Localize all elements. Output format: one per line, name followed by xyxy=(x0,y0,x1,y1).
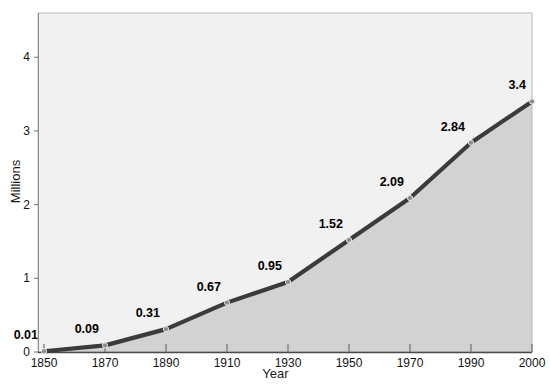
data-point xyxy=(163,327,168,332)
x-axis-title: Year xyxy=(0,366,551,381)
data-point-label: 0.95 xyxy=(258,259,282,273)
y-tick-label: 4 xyxy=(23,50,30,64)
y-tick-label: 1 xyxy=(23,271,30,285)
data-point xyxy=(468,140,473,145)
data-point xyxy=(224,300,229,305)
area-chart: 01234 1850187018901910193019501970199020… xyxy=(0,0,551,388)
data-point-label: 0.31 xyxy=(136,306,160,320)
data-point-label: 3.4 xyxy=(509,78,526,92)
data-point xyxy=(529,99,534,104)
data-point xyxy=(285,279,290,284)
y-tick-label: 0 xyxy=(23,345,30,359)
data-point-label: 2.84 xyxy=(441,120,465,134)
y-axis-title: Millions xyxy=(8,137,23,227)
data-point-label: 2.09 xyxy=(380,175,404,189)
data-point xyxy=(407,195,412,200)
y-axis-ticks: 01234 xyxy=(23,50,38,359)
y-tick-label: 3 xyxy=(23,124,30,138)
y-tick-label: 2 xyxy=(23,198,30,212)
chart-container: 01234 1850187018901910193019501970199020… xyxy=(0,0,551,388)
data-point-label: 0.01 xyxy=(14,328,38,342)
data-point xyxy=(102,343,107,348)
data-point xyxy=(41,349,46,354)
data-point xyxy=(346,237,351,242)
data-point-label: 1.52 xyxy=(319,217,343,231)
data-point-label: 0.09 xyxy=(75,322,99,336)
data-point-label: 0.67 xyxy=(197,280,221,294)
